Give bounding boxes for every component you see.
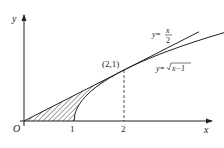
svg-text:2: 2	[166, 36, 170, 45]
svg-text:x: x	[165, 26, 170, 35]
y-axis-label: y	[11, 13, 17, 24]
svg-text:x−1: x−1	[171, 64, 185, 73]
x-axis-label: x	[203, 124, 209, 135]
svg-text:y=: y=	[151, 30, 161, 39]
svg-text:y=: y=	[155, 64, 165, 73]
point-label: (2,1)	[102, 59, 119, 69]
x-tick-1: 1	[70, 124, 75, 134]
origin-label: O	[13, 123, 20, 134]
curve-y-sqrt-x-minus-1	[74, 22, 224, 121]
x-tick-2: 2	[121, 124, 126, 134]
diagram: y x O 1 2 (2,1) y= x 2 y= x−1	[0, 0, 224, 148]
sqrt-equation-label: y= x−1	[155, 63, 191, 73]
line-equation-label: y= x 2	[151, 26, 172, 45]
